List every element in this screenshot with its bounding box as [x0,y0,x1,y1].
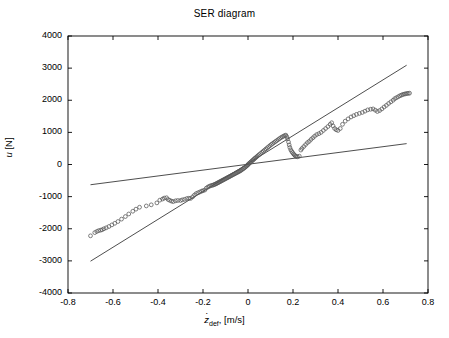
x-tick-label: -0.6 [93,297,133,307]
y-tick-label: -4000 [20,287,62,297]
y-tick-label: 3000 [20,62,62,72]
x-tick-label: 0.6 [363,297,403,307]
y-tick-label: -3000 [20,255,62,265]
x-tick-label: -0.4 [138,297,178,307]
x-tick-label: 0.4 [318,297,358,307]
ser-diagram-figure [0,0,449,338]
x-tick-label: 0.8 [408,297,448,307]
x-tick-label: 0 [228,297,268,307]
y-tick-label: -2000 [20,223,62,233]
y-tick-label: 1000 [20,126,62,136]
x-tick-label: -0.8 [48,297,88,307]
x-tick-label: -0.2 [183,297,223,307]
y-tick-label: 0 [20,159,62,169]
y-tick-label: 2000 [20,94,62,104]
y-tick-label: 4000 [20,30,62,40]
x-tick-label: 0.2 [273,297,313,307]
scatter-points [89,91,412,237]
y-tick-label: -1000 [20,191,62,201]
